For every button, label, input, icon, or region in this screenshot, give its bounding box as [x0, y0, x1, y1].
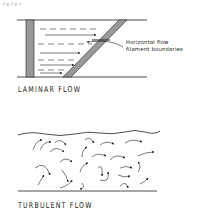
filament-annotation: Horizontal flow filament boundaries [126, 39, 183, 53]
annotation-line-1: Horizontal flow [126, 39, 183, 46]
turbulent-channel [18, 131, 160, 192]
eddy-arrows [33, 138, 154, 189]
flow-diagram [0, 0, 202, 216]
annotation-line-2: filament boundaries [126, 46, 183, 53]
laminar-flow-title: LAMINAR FLOW [18, 85, 81, 94]
turbulent-flow-title: TURBULENT FLOW [18, 201, 93, 210]
